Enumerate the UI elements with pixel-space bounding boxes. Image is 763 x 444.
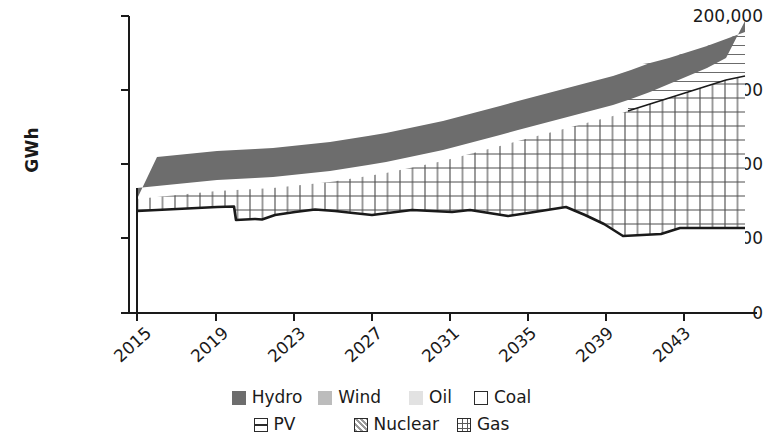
legend-label-nuclear: Nuclear — [374, 416, 439, 433]
legend-item-coal[interactable]: Coal — [474, 389, 531, 406]
legend-item-gas[interactable]: Gas — [457, 416, 509, 433]
legend-row-1: Hydro Wind Oil Coal — [0, 384, 763, 411]
x-tick-label-2035: 2035 — [496, 324, 540, 366]
legend-item-pv[interactable]: PV — [254, 416, 296, 433]
legend-item-oil[interactable]: Oil — [409, 389, 452, 406]
x-tick-label-2039: 2039 — [573, 324, 617, 366]
legend-label-pv: PV — [274, 416, 296, 433]
x-tick-label-2031: 2031 — [419, 324, 463, 366]
nuclear-swatch-icon — [354, 418, 368, 432]
legend-label-oil: Oil — [429, 389, 452, 406]
legend-item-nuclear[interactable]: Nuclear — [354, 416, 439, 433]
x-tick-label-2027: 2027 — [342, 324, 386, 366]
x-axis-ticks — [137, 313, 684, 321]
hydro-swatch-icon — [232, 391, 246, 405]
coal-swatch-icon — [474, 391, 488, 405]
legend-item-hydro[interactable]: Hydro — [232, 389, 303, 406]
y-axis-ticks — [121, 16, 129, 313]
pv-swatch-icon — [254, 418, 268, 432]
plot-area — [0, 0, 763, 330]
chart-legend: Hydro Wind Oil Coal PV Nuclear — [0, 384, 763, 438]
x-tick-label-2023: 2023 — [265, 324, 309, 366]
x-tick-label-2019: 2019 — [188, 324, 232, 366]
legend-label-gas: Gas — [477, 416, 509, 433]
legend-label-coal: Coal — [494, 389, 531, 406]
legend-label-wind: Wind — [338, 389, 381, 406]
oil-swatch-icon — [409, 391, 423, 405]
legend-item-wind[interactable]: Wind — [318, 389, 381, 406]
x-tick-label-2015: 2015 — [111, 324, 155, 366]
x-tick-label-2043: 2043 — [650, 324, 694, 366]
legend-row-2: PV Nuclear Gas — [0, 411, 763, 438]
stacked-area-chart: GWh 200,000 150,000 100,000 50,000 0 201… — [0, 0, 763, 444]
wind-swatch-icon — [318, 391, 332, 405]
gas-swatch-icon — [457, 418, 471, 432]
legend-label-hydro: Hydro — [252, 389, 303, 406]
